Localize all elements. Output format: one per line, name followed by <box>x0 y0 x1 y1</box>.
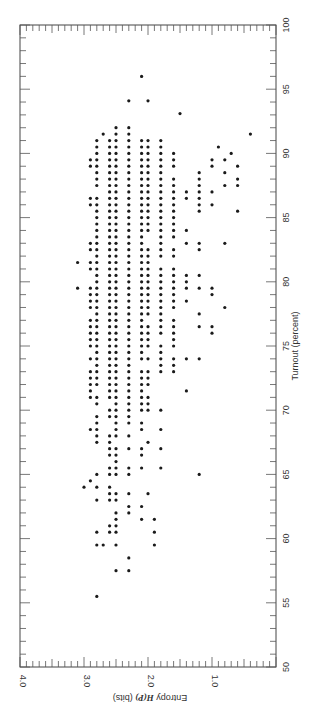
data-point <box>108 190 111 193</box>
data-point <box>114 531 117 534</box>
data-point <box>198 312 201 315</box>
data-point <box>159 357 162 360</box>
data-point <box>89 287 92 290</box>
data-point <box>127 332 130 335</box>
data-point <box>127 287 130 290</box>
data-point <box>172 364 175 367</box>
data-point <box>114 145 117 148</box>
data-point <box>89 389 92 392</box>
scatter-chart: 505560657075808590951001.02.03.04.0 Turn… <box>0 0 309 710</box>
data-point <box>127 319 130 322</box>
data-point <box>159 178 162 181</box>
data-point <box>108 139 111 142</box>
data-point <box>172 370 175 373</box>
data-point <box>114 216 117 219</box>
data-point <box>89 300 92 303</box>
data-point <box>127 556 130 559</box>
data-point <box>89 158 92 161</box>
data-point <box>114 184 117 187</box>
data-point <box>146 229 149 232</box>
data-point <box>198 171 201 174</box>
data-point <box>172 203 175 206</box>
x-tick-label: 55 <box>281 598 291 608</box>
data-point <box>114 261 117 264</box>
data-point <box>114 255 117 258</box>
data-point <box>108 441 111 444</box>
data-point <box>108 499 111 502</box>
data-point <box>108 531 111 534</box>
data-point <box>172 287 175 290</box>
data-point <box>210 158 213 161</box>
data-point <box>108 357 111 360</box>
data-point <box>146 178 149 181</box>
data-point <box>114 357 117 360</box>
data-point <box>223 242 226 245</box>
data-point <box>172 229 175 232</box>
data-point <box>127 338 130 341</box>
data-point <box>159 364 162 367</box>
data-point <box>108 319 111 322</box>
data-point <box>108 280 111 283</box>
data-point <box>127 505 130 508</box>
data-point <box>140 409 143 412</box>
data-point <box>127 158 130 161</box>
data-point <box>172 344 175 347</box>
data-point <box>140 267 143 270</box>
data-point <box>140 518 143 521</box>
data-point <box>114 518 117 521</box>
data-point <box>127 409 130 412</box>
data-point <box>140 383 143 386</box>
data-point <box>140 402 143 405</box>
data-point <box>95 344 98 347</box>
x-tick-label: 80 <box>281 277 291 287</box>
data-point <box>210 332 213 335</box>
data-point <box>89 242 92 245</box>
data-point <box>82 486 85 489</box>
data-point <box>95 499 98 502</box>
data-point <box>140 293 143 296</box>
data-point <box>114 267 117 270</box>
data-point <box>114 402 117 405</box>
data-point <box>140 319 143 322</box>
data-point <box>159 332 162 335</box>
data-point <box>198 357 201 360</box>
data-point <box>127 357 130 360</box>
data-point <box>198 248 201 251</box>
data-point <box>159 145 162 148</box>
data-point <box>127 229 130 232</box>
data-point <box>114 197 117 200</box>
data-point <box>127 165 130 168</box>
data-point <box>159 203 162 206</box>
data-point <box>146 248 149 251</box>
data-point <box>95 210 98 213</box>
data-point <box>198 184 201 187</box>
data-point <box>127 306 130 309</box>
data-point <box>95 293 98 296</box>
data-point <box>198 274 201 277</box>
data-point <box>95 486 98 489</box>
data-point <box>146 492 149 495</box>
data-point <box>114 434 117 437</box>
data-point <box>198 203 201 206</box>
data-point <box>236 165 239 168</box>
data-point <box>114 421 117 424</box>
data-point <box>127 248 130 251</box>
data-point <box>217 145 220 148</box>
data-point <box>108 261 111 264</box>
data-point <box>102 543 105 546</box>
data-point <box>198 197 201 200</box>
data-point <box>108 447 111 450</box>
data-point <box>114 293 117 296</box>
data-point <box>198 242 201 245</box>
data-point <box>140 222 143 225</box>
data-point <box>172 165 175 168</box>
data-point <box>146 332 149 335</box>
data-point <box>230 152 233 155</box>
data-point <box>140 158 143 161</box>
data-point <box>223 171 226 174</box>
data-point <box>210 190 213 193</box>
data-point <box>159 280 162 283</box>
data-point <box>89 306 92 309</box>
x-tick-label: 60 <box>281 534 291 544</box>
data-point <box>127 293 130 296</box>
